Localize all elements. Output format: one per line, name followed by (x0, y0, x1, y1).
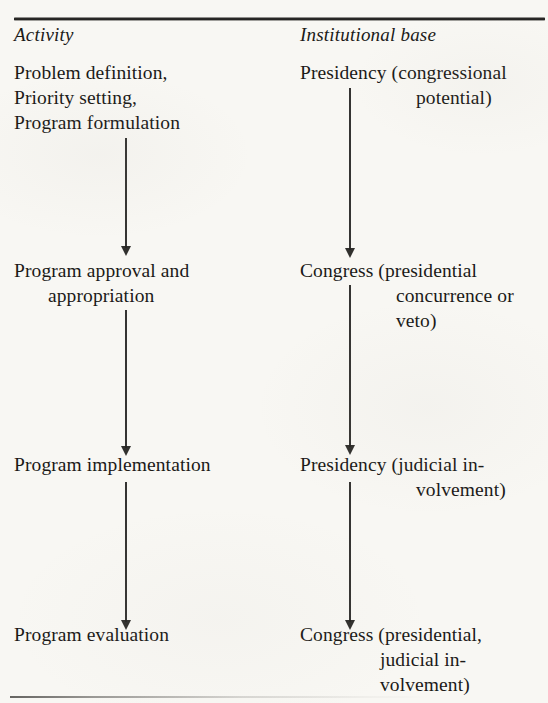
institution-line: Presidency (judicial in- (300, 452, 506, 477)
institution-line: volvement) (300, 477, 506, 502)
activity-line: Program evaluation (14, 622, 169, 647)
institution-line: volvement) (300, 672, 482, 697)
institution-block-row-4: Congress (presidential, judicial in- vol… (300, 622, 482, 697)
institution-line: concurrence or (300, 283, 514, 308)
activity-line: Program approval and (14, 258, 189, 283)
institution-line: potential) (300, 85, 507, 110)
top-horizontal-rule (14, 17, 545, 21)
flow-arrow-left-2 (120, 310, 133, 458)
institution-line: Presidency (congressional (300, 60, 507, 85)
institution-line: judicial in- (300, 647, 482, 672)
flow-arrow-right-2 (344, 285, 357, 457)
activity-line: Program implementation (14, 452, 211, 477)
flow-arrow-right-1 (344, 88, 357, 260)
flow-arrow-right-3 (344, 482, 357, 632)
activity-line: appropriation (14, 283, 189, 308)
activity-block-row-3: Program implementation (14, 452, 211, 477)
activity-line: Priority setting, (14, 85, 180, 110)
activity-line: Problem definition, (14, 60, 180, 85)
activity-block-row-1: Problem definition, Priority setting, Pr… (14, 60, 180, 135)
activity-line: Program formulation (14, 110, 180, 135)
bottom-horizontal-rule (10, 696, 430, 698)
institution-line: Congress (presidential (300, 258, 514, 283)
institution-block-row-3: Presidency (judicial in- volvement) (300, 452, 506, 502)
flow-arrow-left-1 (120, 138, 133, 258)
flow-arrow-left-3 (120, 482, 133, 632)
institution-block-row-2: Congress (presidential concurrence or ve… (300, 258, 514, 333)
institution-block-row-1: Presidency (congressional potential) (300, 60, 507, 110)
column-header-institutional-base: Institutional base (300, 24, 436, 46)
institution-line: Congress (presidential, (300, 622, 482, 647)
activity-block-row-2: Program approval and appropriation (14, 258, 189, 308)
figure-page: Activity Institutional base Problem defi… (0, 0, 548, 703)
institution-line: veto) (300, 308, 514, 333)
column-header-activity: Activity (14, 24, 74, 46)
activity-block-row-4: Program evaluation (14, 622, 169, 647)
